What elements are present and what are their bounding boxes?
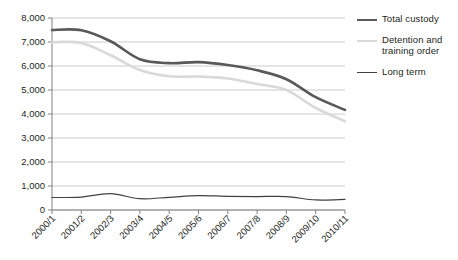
legend-item-total-custody[interactable]: Total custody	[357, 13, 458, 24]
y-tick-label: 6,000	[21, 60, 45, 71]
x-tick-labels: 2000/12001/22002/32003/42004/52005/62006…	[29, 213, 350, 245]
x-tick-label: 2007/8	[234, 213, 262, 241]
y-tick-label: 4,000	[21, 108, 45, 119]
chart-legend: Total custody Detention and training ord…	[357, 13, 458, 87]
legend-swatch-total-custody	[357, 19, 377, 21]
x-tick-label: 2000/1	[29, 213, 57, 241]
x-tick-label: 2006/7	[205, 213, 233, 241]
legend-label-long-term: Long term	[382, 66, 426, 77]
y-tick-label: 3,000	[21, 132, 45, 143]
x-tick-label: 2009/10	[289, 213, 321, 245]
x-tick-label: 2005/6	[176, 213, 204, 241]
legend-label-total-custody: Total custody	[382, 13, 439, 24]
data-series	[52, 29, 345, 200]
x-tick-label: 2008/9	[263, 213, 291, 241]
y-tick-label: 0	[40, 204, 45, 215]
x-tick-marks	[52, 210, 345, 214]
y-tick-label: 1,000	[21, 180, 45, 191]
x-tick-label: 2004/5	[146, 213, 174, 241]
chart-figure: 01,0002,0003,0004,0005,0006,0007,0008,00…	[0, 0, 458, 260]
y-tick-label: 2,000	[21, 156, 45, 167]
y-tick-labels: 01,0002,0003,0004,0005,0006,0007,0008,00…	[21, 12, 52, 215]
x-tick-label: 2003/4	[117, 213, 145, 241]
legend-item-long-term[interactable]: Long term	[357, 66, 458, 77]
x-tick-label: 2010/11	[319, 213, 351, 245]
x-tick-label: 2001/2	[58, 213, 86, 241]
y-tick-label: 5,000	[21, 84, 45, 95]
y-tick-label: 8,000	[21, 12, 45, 23]
legend-swatch-detention-and-training-order	[357, 40, 377, 42]
gridlines	[52, 18, 345, 210]
legend-item-detention-and-training-order[interactable]: Detention and training order	[357, 34, 458, 56]
x-tick-label: 2002/3	[88, 213, 116, 241]
legend-label-detention-and-training-order: Detention and training order	[382, 34, 458, 56]
series-line-detention-and-training-order	[52, 42, 345, 121]
series-line-long-term	[52, 194, 345, 200]
y-tick-label: 7,000	[21, 36, 45, 47]
legend-swatch-long-term	[357, 72, 377, 73]
